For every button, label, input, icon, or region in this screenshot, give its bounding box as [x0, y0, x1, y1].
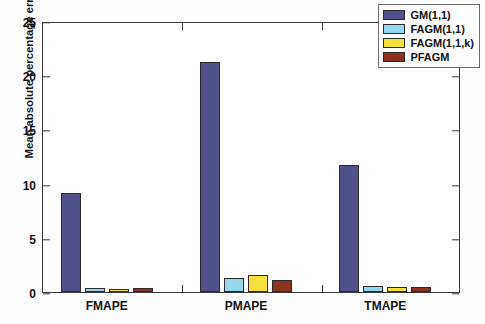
x-axis-tick-mark-top [322, 23, 323, 30]
y-axis-tick-mark [43, 293, 50, 294]
legend-item: PFAGM [383, 50, 474, 64]
chart-legend: GM(1,1)FAGM(1,1)FAGM(1,1,k)PFAGM [378, 4, 480, 68]
y-axis-tick-label: 25 [23, 17, 43, 29]
legend-item-label: GM(1,1) [410, 10, 450, 21]
y-axis-tick-mark-right [452, 293, 459, 294]
legend-color-swatch [383, 38, 405, 48]
x-axis-category-label: PMAPE [225, 299, 268, 313]
bar-pmape-series-0 [200, 62, 220, 292]
x-axis-category-label: FMAPE [86, 299, 128, 313]
y-axis-tick-mark-right [452, 239, 459, 240]
y-axis-tick-mark [43, 239, 50, 240]
legend-item-label: FAGM(1,1) [410, 24, 464, 35]
y-axis-tick-mark-right [452, 76, 459, 77]
y-axis-tick-mark [43, 131, 50, 132]
x-axis-category-label: TMAPE [364, 299, 406, 313]
bar-fmape-series-1 [85, 288, 105, 292]
legend-item: GM(1,1) [383, 8, 474, 22]
y-axis-tick-label: 0 [29, 288, 43, 300]
bar-pmape-series-3 [272, 280, 292, 292]
bar-tmape-series-1 [363, 286, 383, 292]
x-axis-tick-mark [322, 285, 323, 292]
y-axis-tick-label: 20 [23, 71, 43, 83]
legend-color-swatch [383, 10, 405, 20]
bar-pmape-series-1 [224, 278, 244, 292]
y-axis-tick-mark-right [452, 185, 459, 186]
legend-item: FAGM(1,1,k) [383, 36, 474, 50]
bar-fmape-series-0 [61, 193, 81, 292]
bar-fmape-series-3 [133, 288, 153, 292]
bar-fmape-series-2 [109, 289, 129, 292]
legend-item-label: FAGM(1,1,k) [410, 38, 474, 49]
y-axis-tick-mark [43, 22, 50, 23]
legend-item: FAGM(1,1) [383, 22, 474, 36]
y-axis-tick-mark-right [452, 131, 459, 132]
y-axis-tick-label: 5 [29, 234, 43, 246]
figure-canvas: Mean absolute percentage error(%) 051015… [0, 0, 485, 324]
y-axis-tick-label: 15 [23, 125, 43, 137]
legend-color-swatch [383, 24, 405, 34]
x-axis-tick-mark-top [182, 23, 183, 30]
y-axis-tick-label: 10 [23, 180, 43, 192]
x-axis-tick-mark [182, 285, 183, 292]
bar-tmape-series-2 [387, 287, 407, 292]
y-axis-tick-mark [43, 76, 50, 77]
bar-tmape-series-3 [411, 287, 431, 292]
y-axis-tick-mark [43, 185, 50, 186]
legend-color-swatch [383, 52, 405, 62]
bar-pmape-series-2 [248, 275, 268, 292]
legend-item-label: PFAGM [410, 52, 449, 63]
bar-tmape-series-0 [339, 165, 359, 292]
